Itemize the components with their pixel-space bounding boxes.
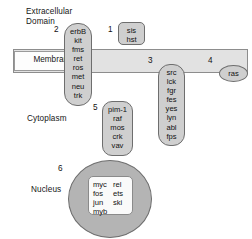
nucleus-gene-column-left: myc fos jun myb [93,180,113,215]
gene-label: mos [110,123,124,132]
gene-group-membrane-associated-tyrosine-kinases: src lck fgr fes yes lyn abl fps [158,64,185,146]
callout-number-3: 3 [148,56,153,65]
gene-group-growth-factors: sis hst [118,22,145,45]
gene-label: kit [74,36,82,45]
gene-label: jun [93,198,113,207]
callout-number-2: 2 [54,25,59,34]
callout-number-4: 4 [208,56,213,65]
gene-label: src [166,68,176,77]
gene-label: neu [72,82,85,91]
gene-label: ras [228,69,239,78]
gene-label: trk [74,91,82,100]
gene-label: fos [93,189,113,198]
gene-label: vav [112,141,124,150]
gene-label: fes [166,95,176,104]
gene-label: rel [113,180,132,189]
nucleus-gene-column-right: rel ets ski [113,180,132,215]
gene-label: fps [166,132,176,141]
callout-number-6: 6 [58,164,63,173]
region-label-cytoplasm: Cytoplasm [27,114,67,124]
callout-number-1: 1 [108,25,113,34]
gene-label: lyn [167,113,177,122]
oncogene-localization-diagram: Extracellular Domain Membrane Cytoplasm … [0,0,252,239]
gene-label: raf [113,114,122,123]
gene-label: ski [113,198,132,207]
gene-label: hst [126,35,136,44]
gene-group-g-protein: ras [219,65,248,82]
gene-group-receptor-tyrosine-kinases: erbB kit fms ret ros met neu trk [64,23,92,106]
gene-label: ros [73,63,84,72]
gene-label: erbB [70,27,86,36]
gene-label: pim-1 [108,105,127,114]
gene-label: met [72,72,85,81]
region-label-nucleus: Nucleus [31,185,61,195]
gene-label: lck [167,77,176,86]
gene-group-cytoplasmic-signaling: pim-1 raf mos crk vav [102,101,133,156]
callout-number-5: 5 [93,103,98,112]
gene-label: crk [112,132,122,141]
gene-label: myb [93,207,113,216]
gene-label: fms [72,45,84,54]
gene-label: sis [127,26,136,35]
region-label-extracellular-domain: Extracellular Domain [26,7,72,27]
gene-label: myc [93,180,113,189]
gene-label: yes [166,104,178,113]
gene-label: fgr [167,86,176,95]
gene-label: ets [113,189,132,198]
gene-label: ret [74,54,83,63]
gene-group-nuclear-transcription-factors: myc fos jun myb rel ets ski [88,176,133,215]
gene-label: abl [166,123,176,132]
